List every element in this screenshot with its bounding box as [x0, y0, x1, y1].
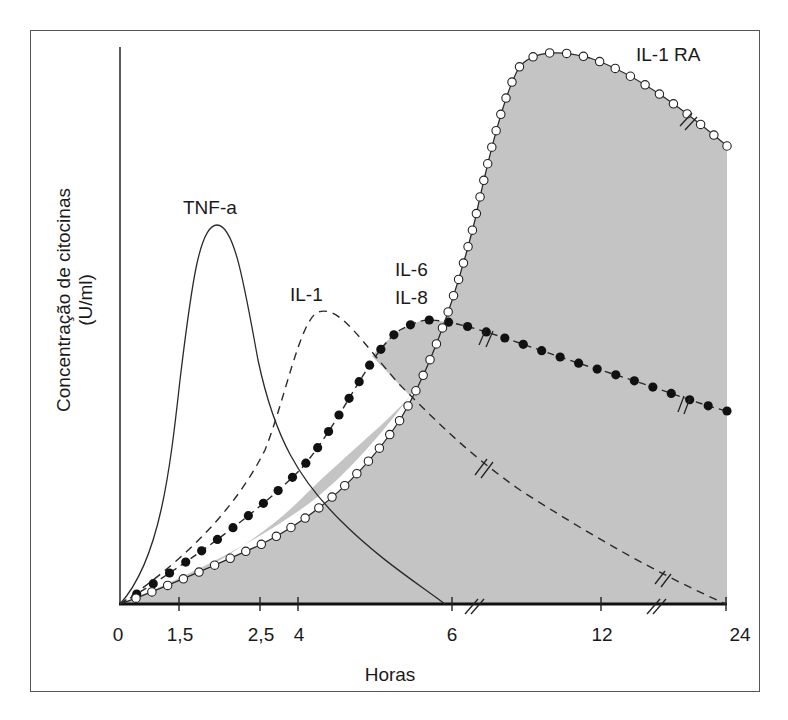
- chart-plot: TNF-a IL-1 IL-6 IL-8 IL-1 RA 0 1,5 2,5 4…: [0, 0, 788, 720]
- label-il8: IL-8: [395, 287, 428, 308]
- svg-text:Concentração de citocinas: Concentração de citocinas: [53, 188, 74, 412]
- x-axis-label: Horas: [365, 664, 416, 685]
- svg-text:24: 24: [729, 624, 751, 645]
- svg-text:6: 6: [447, 624, 458, 645]
- svg-text:2,5: 2,5: [248, 624, 274, 645]
- label-il6: IL-6: [395, 259, 428, 280]
- svg-text:4: 4: [294, 624, 305, 645]
- label-tnf: TNF-a: [183, 197, 237, 218]
- svg-text:1,5: 1,5: [167, 624, 193, 645]
- label-il1: IL-1: [290, 284, 323, 305]
- svg-text:0: 0: [113, 624, 124, 645]
- svg-text:(U/ml): (U/ml): [75, 274, 96, 326]
- label-il1ra: IL-1 RA: [636, 44, 701, 65]
- svg-text:12: 12: [591, 624, 612, 645]
- y-axis-label: Concentração de citocinas (U/ml): [53, 188, 96, 412]
- x-tick-labels: 0 1,5 2,5 4 6 12 24: [113, 624, 751, 645]
